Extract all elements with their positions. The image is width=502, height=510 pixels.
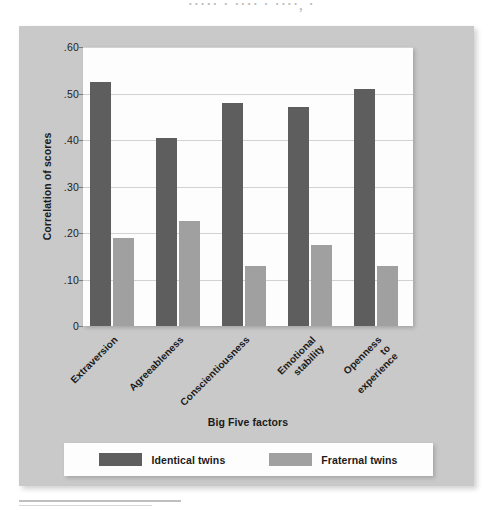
- legend-entry: Fraternal twins: [269, 453, 397, 466]
- y-axis-tick-mark: [78, 140, 83, 141]
- bar: [156, 138, 177, 326]
- y-axis-tick-label: .60: [64, 41, 79, 53]
- y-axis-tick-mark: [78, 233, 83, 234]
- legend-color-swatch: [99, 453, 142, 466]
- bar: [179, 221, 200, 326]
- bar: [377, 266, 398, 326]
- y-axis-tick-label: .40: [64, 134, 79, 146]
- y-axis-tick-mark: [78, 326, 83, 327]
- figure-panel: Correlation of scores 0.10.20.30.40.50.6…: [19, 26, 474, 486]
- legend-color-swatch: [269, 453, 312, 466]
- y-axis-tick-mark: [78, 280, 83, 281]
- legend-entry: Identical twins: [99, 453, 225, 466]
- legend-label: Identical twins: [151, 454, 225, 466]
- chart-legend: Identical twinsFraternal twins: [64, 443, 433, 476]
- y-axis-tick-label: .50: [64, 88, 79, 100]
- scan-top-artifact: ····· · ···· · ····, ·: [0, 0, 502, 14]
- x-axis-title: Big Five factors: [83, 416, 413, 428]
- y-axis-tick-mark: [78, 47, 83, 48]
- bar: [311, 245, 332, 326]
- bar: [90, 82, 111, 326]
- plot-area: [83, 47, 413, 326]
- bar: [113, 238, 134, 326]
- y-axis-tick-label: .20: [64, 227, 79, 239]
- page-bottom-rule: [19, 500, 181, 502]
- bar: [245, 266, 266, 326]
- page-bottom-rule-secondary: [19, 505, 152, 506]
- bar: [288, 107, 309, 326]
- y-axis-tick-label: .30: [64, 181, 79, 193]
- y-axis-tick-labels: 0.10.20.30.40.50.60: [53, 47, 79, 326]
- bar: [354, 89, 375, 326]
- y-axis-tick-mark: [78, 94, 83, 95]
- legend-label: Fraternal twins: [321, 454, 397, 466]
- bar: [222, 103, 243, 326]
- y-axis-tick-mark: [78, 187, 83, 188]
- gridline: [83, 47, 413, 48]
- y-axis-tick-label: .10: [64, 274, 79, 286]
